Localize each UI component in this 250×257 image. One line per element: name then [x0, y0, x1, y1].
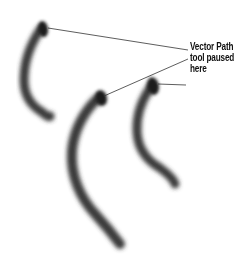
leader-line-left [48, 28, 188, 50]
annotation-line-2: tool paused [190, 52, 239, 63]
middle-brush-stroke [72, 100, 120, 244]
annotation-line-3: here [190, 63, 239, 74]
illustration-canvas [0, 0, 250, 257]
annotation-label: Vector Path tool paused here [190, 41, 239, 74]
left-brush-stroke [24, 30, 50, 117]
right-brush-stroke [137, 88, 175, 184]
annotation-line-1: Vector Path [190, 41, 239, 52]
leader-line-right [158, 84, 186, 85]
